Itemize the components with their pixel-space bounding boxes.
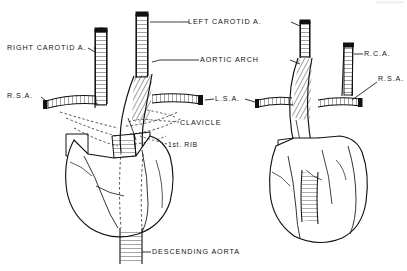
label-rca-right-figure: R.C.A.: [364, 50, 391, 58]
right-fig-rca-vessel: [342, 43, 354, 96]
label-aortic-arch: AORTIC ARCH: [200, 56, 259, 64]
label-rsa-left-figure: R.S.A.: [7, 92, 33, 100]
scan-artifact-mark: [376, 1, 404, 3]
label-first-rib: 1st. RIB: [168, 141, 198, 149]
label-clavicle: CLAVICLE: [180, 119, 221, 127]
right-fig-left-carotid-vessel: [300, 20, 310, 58]
right-fig-descending-aorta: [301, 170, 318, 224]
left-fig-descending-aorta: [120, 228, 142, 264]
label-descending-aorta: DESCENDING AORTA: [152, 248, 240, 256]
label-right-carotid-artery: RIGHT CAROTID A.: [7, 44, 86, 52]
anatomical-illustration: [0, 0, 407, 271]
label-lsa: L.S.A.: [215, 95, 240, 103]
left-fig-right-carotid-vessel: [95, 28, 107, 108]
right-fig-heart: [270, 136, 368, 243]
left-fig-left-carotid-vessel: [136, 12, 148, 78]
label-rsa-right-figure: R.S.A.: [378, 75, 404, 83]
label-left-carotid-artery: LEFT CAROTID A.: [188, 18, 262, 26]
